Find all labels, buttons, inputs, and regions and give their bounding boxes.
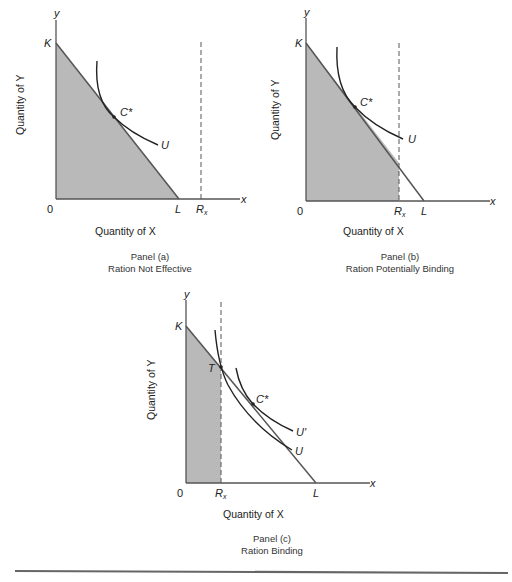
x-axis-title-b: Quantity of X: [343, 225, 404, 237]
u-prime-label-c: U': [296, 426, 307, 438]
l-label-b: L: [421, 205, 427, 217]
panel-b: y K 0 Rx L x C* U Quantity of X Quantity…: [269, 6, 496, 274]
point-c-c: [251, 402, 255, 406]
k-label-b: K: [295, 37, 303, 49]
y-axis-title-b: Quantity of Y: [269, 79, 281, 140]
l-label-c: L: [313, 487, 319, 499]
feasible-region-b: [306, 43, 399, 201]
c-star-label-b: C*: [360, 96, 373, 108]
u-label-c: U: [295, 445, 303, 457]
ration-diagram: y K 0 L Rx x C* U Quantity of X Quantity…: [0, 0, 512, 582]
bottom-rule: [15, 571, 508, 573]
c-star-label-a: C*: [120, 106, 133, 118]
rx-label-c: Rx: [215, 487, 227, 500]
caption-title-a: Panel (a): [131, 251, 170, 262]
c-star-label-c: C*: [256, 393, 269, 405]
y-letter-a: y: [53, 7, 61, 19]
caption-subtitle-b: Ration Potentially Binding: [346, 263, 454, 274]
k-label-c: K: [175, 320, 183, 332]
x-axis-title-c: Quantity of X: [223, 508, 284, 520]
y-axis-title-c: Quantity of Y: [145, 359, 157, 420]
u-label-a: U: [161, 139, 169, 151]
y-axis-title-a: Quantity of Y: [14, 74, 26, 135]
panel-c: y K T 0 Rx L x C* U' U Quantity of X Qua…: [145, 288, 376, 556]
rx-label-a: Rx: [196, 203, 208, 216]
rx-label-b: Rx: [394, 205, 406, 218]
k-label-a: K: [44, 37, 52, 49]
origin-label-c: 0: [177, 487, 183, 499]
feasible-region-c: [186, 326, 221, 483]
x-letter-c: x: [369, 477, 376, 489]
point-c-a: [112, 115, 116, 119]
x-letter-b: x: [489, 195, 496, 207]
x-axis-title-a: Quantity of X: [95, 225, 156, 237]
origin-label-b: 0: [297, 205, 303, 217]
u-label-b: U: [408, 133, 416, 145]
y-letter-b: y: [303, 6, 311, 18]
y-letter-c: y: [183, 288, 191, 300]
caption-subtitle-c: Ration Binding: [241, 545, 303, 556]
l-label-a: L: [175, 203, 181, 215]
caption-subtitle-a: Ration Not Effective: [108, 263, 192, 274]
point-c-b: [353, 105, 357, 109]
origin-label-a: 0: [47, 203, 53, 215]
caption-title-b: Panel (b): [381, 251, 420, 262]
x-letter-a: x: [240, 193, 247, 205]
indifference-curve-u-c: [215, 330, 292, 450]
panel-a: y K 0 L Rx x C* U Quantity of X Quantity…: [14, 7, 247, 274]
caption-title-c: Panel (c): [253, 533, 291, 544]
point-t-c: [219, 365, 223, 369]
